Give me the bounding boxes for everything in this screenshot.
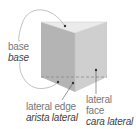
lateral-face-label: lateral face cara lateral — [86, 94, 133, 127]
lateral-face-dot — [95, 69, 97, 71]
prism-right-face — [75, 22, 107, 92]
lateral-edge-label-es: arista lateral — [26, 112, 78, 123]
lateral-face-label-en-1: lateral — [86, 94, 133, 105]
base-label-en: base — [8, 41, 29, 52]
base-bottom-dot — [57, 81, 59, 83]
lateral-edge-label-en: lateral edge — [26, 101, 78, 112]
lateral-face-label-en-2: face — [86, 105, 133, 116]
base-label-es: base — [8, 52, 29, 63]
lateral-edge-label: lateral edge arista lateral — [26, 101, 78, 123]
base-label: base base — [8, 41, 29, 63]
base-top-dot — [64, 25, 66, 27]
lateral-edge-dot — [72, 82, 74, 84]
lateral-face-label-es: cara lateral — [86, 116, 133, 127]
